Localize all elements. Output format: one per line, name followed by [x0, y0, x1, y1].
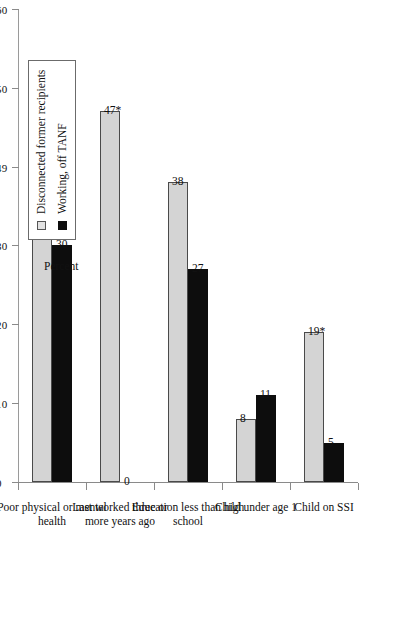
percent-tick-label: 60 [0, 5, 7, 16]
bar-value-label: 11 [260, 389, 271, 401]
chart-rotated-stage: 0102030495060 50*47*38819*30027115 Poor … [0, 0, 395, 639]
legend-item-label: Working, off TANF [57, 123, 69, 214]
bar[interactable] [168, 182, 188, 482]
category-tick-mark [222, 483, 223, 490]
category-tick-mark [86, 483, 87, 490]
percent-tick-mark [12, 246, 19, 247]
percent-axis-line [18, 10, 19, 483]
legend-item-disconnected-former-recipients[interactable]: Disconnected former recipients [36, 70, 48, 230]
bar[interactable] [324, 443, 344, 482]
percent-tick-mark [12, 324, 19, 325]
bar-value-label: 5 [328, 437, 334, 449]
bar-chart-figure: 0102030495060 50*47*38819*30027115 Poor … [0, 0, 395, 639]
bar[interactable] [188, 269, 208, 482]
category-tick-mark [358, 483, 359, 490]
bar-value-label: 47* [104, 105, 121, 117]
percent-tick-label: 0 [0, 478, 2, 489]
plot-area: 0102030495060 50*47*38819*30027115 Poor … [0, 10, 395, 483]
category-axis-line [18, 482, 358, 483]
percent-tick-mark [12, 167, 19, 168]
bar[interactable] [256, 395, 276, 482]
category-label: Child on SSI [239, 501, 395, 515]
bar-value-label: 0 [124, 476, 130, 488]
category-tick-mark [154, 483, 155, 490]
bar[interactable] [100, 111, 120, 482]
category-tick-mark [290, 483, 291, 490]
light-square-swatch-icon [37, 221, 46, 230]
legend-item-label: Disconnected former recipients [36, 70, 48, 214]
percent-tick-label: 30 [0, 242, 7, 253]
legend-item-working-off-tanf[interactable]: Working, off TANF [57, 70, 69, 230]
bar-value-label: 8 [240, 413, 246, 425]
category-tick-mark [18, 483, 19, 490]
bar-value-label: 38 [172, 176, 184, 188]
bar[interactable] [236, 419, 256, 482]
bar[interactable] [304, 332, 324, 482]
percent-tick-mark [12, 9, 19, 10]
percent-axis-title: Percent [44, 261, 78, 273]
percent-tick-label: 49 [0, 163, 7, 174]
bar[interactable] [52, 246, 72, 483]
percent-tick-mark [12, 403, 19, 404]
percent-tick-label: 10 [0, 399, 7, 410]
percent-tick-mark [12, 88, 19, 89]
bar-value-label: 19* [308, 326, 325, 338]
bar-value-label: 27 [192, 263, 204, 275]
bar-value-label: 30 [56, 240, 68, 252]
percent-tick-label: 20 [0, 320, 7, 331]
percent-tick-label: 50 [0, 84, 7, 95]
chart-legend: Disconnected former recipients Working, … [28, 60, 76, 240]
dark-square-swatch-icon [58, 221, 67, 230]
